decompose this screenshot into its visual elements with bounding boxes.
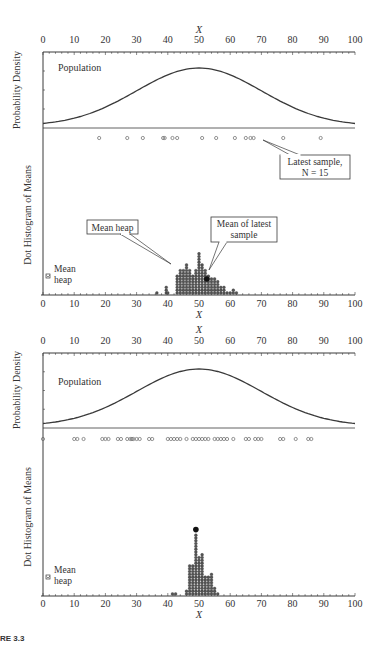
sample-point [225,437,228,440]
sample-point [101,437,104,440]
mean-heap-dot [188,570,191,573]
sample-point [282,437,285,440]
x-tick-label-top: 40 [163,335,173,346]
mean-heap-dot [210,286,213,289]
sample-point [138,437,141,440]
callout-gap [121,233,129,235]
mean-heap-dot [201,556,204,559]
sample-point [252,136,255,139]
mean-heap-dot [179,289,182,292]
y-axis-label-histogram: Dot Histogram of Means [22,467,33,567]
mean-heap-dot [176,278,179,281]
sample-point [166,437,169,440]
mean-heap-dot [188,292,191,295]
mean-heap-dot [174,593,177,596]
sample-point [104,437,107,440]
mean-heap-dot [207,593,210,596]
mean-heap-dot [204,590,207,593]
mean-heap-dot [216,289,219,292]
x-tick-label-bottom: 60 [225,298,235,309]
callout-mean-heap-label: Mean heap [92,223,134,233]
mean-heap-dot [198,292,201,295]
check-icon [47,275,51,277]
mean-heap-dot [201,581,204,584]
mean-heap-dot [182,272,185,275]
population-label: Population [58,376,101,387]
sample-point [107,437,110,440]
mean-heap-dot [166,292,169,295]
mean-heap-dot [188,269,191,272]
mean-heap-dot [210,593,213,596]
sample-point [294,437,297,440]
mean-heap-dot [191,280,194,283]
sample-point [172,437,175,440]
mean-heap-dot [210,289,213,292]
mean-heap-dot [201,565,204,568]
mean-heap-dot [198,576,201,579]
mean-heap-dot [188,278,191,281]
x-tick-label-bottom: 70 [256,298,266,309]
latest-mean-dot [204,276,210,282]
x-tick-label-bottom: 70 [256,598,266,609]
mean-heap-dot [219,286,222,289]
mean-heap-dot [194,559,197,562]
mean-heap-dot [182,278,185,281]
mean-heap-dot [204,292,207,295]
callout-latest-mean-label: Mean of latest [217,219,272,229]
mean-heap-dot [213,286,216,289]
mean-heap-dot [185,269,188,272]
sample-point [233,136,236,139]
mean-heap-dot [191,576,194,579]
mean-heap-dot [194,272,197,275]
mean-heap-dot [185,272,188,275]
x-tick-label-bottom: 60 [225,598,235,609]
mean-heap-dot [191,275,194,278]
mean-heap-dot [198,562,201,565]
mean-heap-dot [194,278,197,281]
population-curve [43,68,355,124]
mean-heap-dot [213,590,216,593]
x-tick-label-bottom: 40 [163,298,173,309]
x-tick-label-bottom: 90 [319,598,329,609]
mean-heap-dot [207,292,210,295]
mean-heap-dot [213,283,216,286]
mean-heap-dot [198,556,201,559]
mean-heap-dot [194,573,197,576]
x-tick-label-bottom: 100 [348,598,363,609]
mean-heap-dot [191,565,194,568]
mean-heap-dot [198,567,201,570]
mean-heap-dot [188,587,191,590]
mean-heap-dot [216,292,219,295]
mean-heap-dot [198,581,201,584]
mean-heap-dot [213,289,216,292]
mean-heap-dot [198,587,201,590]
mean-heap-dot [210,278,213,281]
mean-heap-dot [235,292,238,295]
mean-heap-dot [191,593,194,596]
mean-heap-dot [229,292,232,295]
sample-point [244,136,247,139]
mean-heap-dot [194,289,197,292]
mean-heap-dot [188,283,191,286]
mean-heap-dot [191,570,194,573]
mean-heap-dot [201,567,204,570]
mean-heap-dot [198,269,201,272]
mean-heap-dot [201,292,204,295]
mean-heap-dot [194,567,197,570]
mean-heap-dot [194,545,197,548]
mean-heap-dot [201,278,204,281]
sample-point [260,437,263,440]
mean-heap-dot [191,581,194,584]
x-tick-label-bottom: 20 [100,298,110,309]
mean-heap-dot [204,269,207,272]
x-axis-title-bottom: X [195,309,203,320]
mean-heap-dot [191,283,194,286]
mean-heap-dot [216,593,219,596]
sample-point [307,437,310,440]
mean-heap-dot [179,286,182,289]
mean-heap-dot [198,255,201,258]
mean-heap-dot [194,590,197,593]
sample-point [201,136,204,139]
x-tick-label-bottom: 50 [194,298,204,309]
sample-point [216,437,219,440]
